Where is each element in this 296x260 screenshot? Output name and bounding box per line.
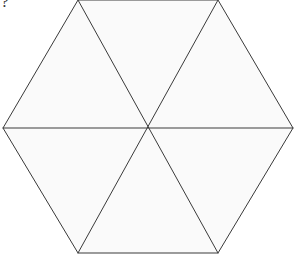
figure-canvas: ?: [0, 0, 296, 260]
question-mark-label: ?: [1, 0, 9, 10]
hexagon-figure: [0, 0, 296, 260]
